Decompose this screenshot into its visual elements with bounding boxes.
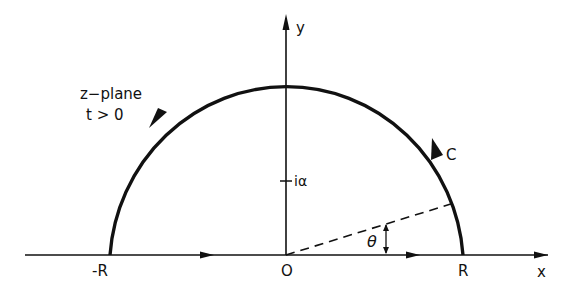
y-axis-arrow-icon <box>283 14 290 30</box>
theta-arrow-down-icon <box>383 247 389 254</box>
r-label: R <box>458 262 468 280</box>
plane-label: z−plane <box>80 85 142 103</box>
neg-r-label: -R <box>92 262 108 280</box>
contour-diagram: z−plane t > 0 y x O -R R iα C θ <box>0 0 570 288</box>
theta-label: θ <box>367 232 377 251</box>
y-axis-label: y <box>296 19 305 37</box>
contour-arrow-right-icon <box>431 138 443 160</box>
origin-label: O <box>281 262 293 280</box>
i-alpha-label: iα <box>294 173 307 189</box>
contour-arrow-left-icon <box>149 108 167 128</box>
theta-arrow-up-icon <box>383 224 389 231</box>
x-axis-arrow-icon <box>534 252 548 259</box>
real-axis-direction-arrow-left-icon <box>200 252 214 259</box>
x-axis-label: x <box>537 263 546 281</box>
contour-label: C <box>446 146 456 164</box>
real-axis-direction-arrow-right-icon <box>406 252 420 259</box>
condition-label: t > 0 <box>86 106 124 124</box>
